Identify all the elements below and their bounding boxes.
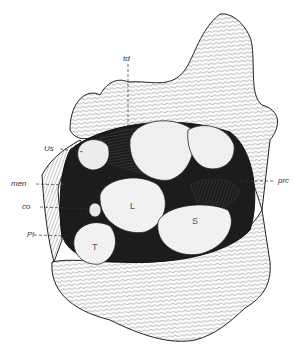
anatomical-illustration: [0, 0, 295, 363]
region-l: L: [130, 202, 135, 211]
region-s: S: [192, 217, 198, 226]
label-men: men: [11, 180, 27, 188]
co-nodule: [89, 203, 101, 217]
label-pi: Pi: [27, 231, 34, 239]
label-us: Us: [44, 145, 54, 153]
label-td: td: [123, 55, 130, 63]
region-t: T: [92, 243, 98, 252]
label-prc: prc: [278, 177, 289, 185]
label-co: co: [22, 203, 30, 211]
